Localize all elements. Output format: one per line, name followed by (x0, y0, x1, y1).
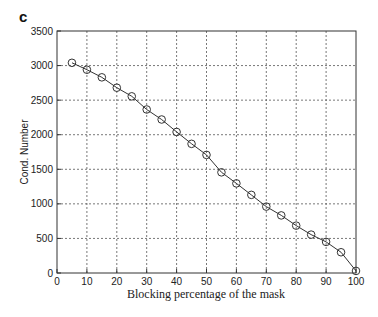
x-tick-label: 30 (141, 276, 153, 287)
data-series (68, 59, 360, 275)
x-tick-label: 20 (111, 276, 123, 287)
x-axis-ticks: 0102030405060708090100 (54, 269, 365, 287)
y-tick-label: 500 (36, 233, 53, 244)
y-tick-label: 3500 (31, 26, 54, 37)
y-axis-label: Cond. Number (19, 119, 30, 185)
x-tick-label: 60 (231, 276, 243, 287)
x-tick-label: 0 (54, 276, 60, 287)
grid-lines (57, 31, 356, 273)
y-tick-label: 1000 (31, 198, 54, 209)
data-point-marker (68, 59, 76, 67)
y-axis-ticks: 0500100015002000250030003500 (31, 26, 61, 279)
line-chart: 0500100015002000250030003500 01020304050… (0, 0, 378, 317)
y-tick-label: 2500 (31, 95, 54, 106)
x-tick-label: 90 (321, 276, 333, 287)
series-line (72, 63, 356, 271)
x-tick-label: 10 (81, 276, 93, 287)
x-tick-label: 50 (201, 276, 213, 287)
x-tick-label: 70 (261, 276, 273, 287)
x-tick-label: 100 (348, 276, 365, 287)
y-tick-label: 0 (47, 268, 53, 279)
y-tick-label: 2000 (31, 129, 54, 140)
x-tick-label: 40 (171, 276, 183, 287)
y-tick-label: 3000 (31, 60, 54, 71)
x-axis-label: Blocking percentage of the mask (127, 287, 285, 301)
x-tick-label: 80 (291, 276, 303, 287)
y-tick-label: 1500 (31, 164, 54, 175)
